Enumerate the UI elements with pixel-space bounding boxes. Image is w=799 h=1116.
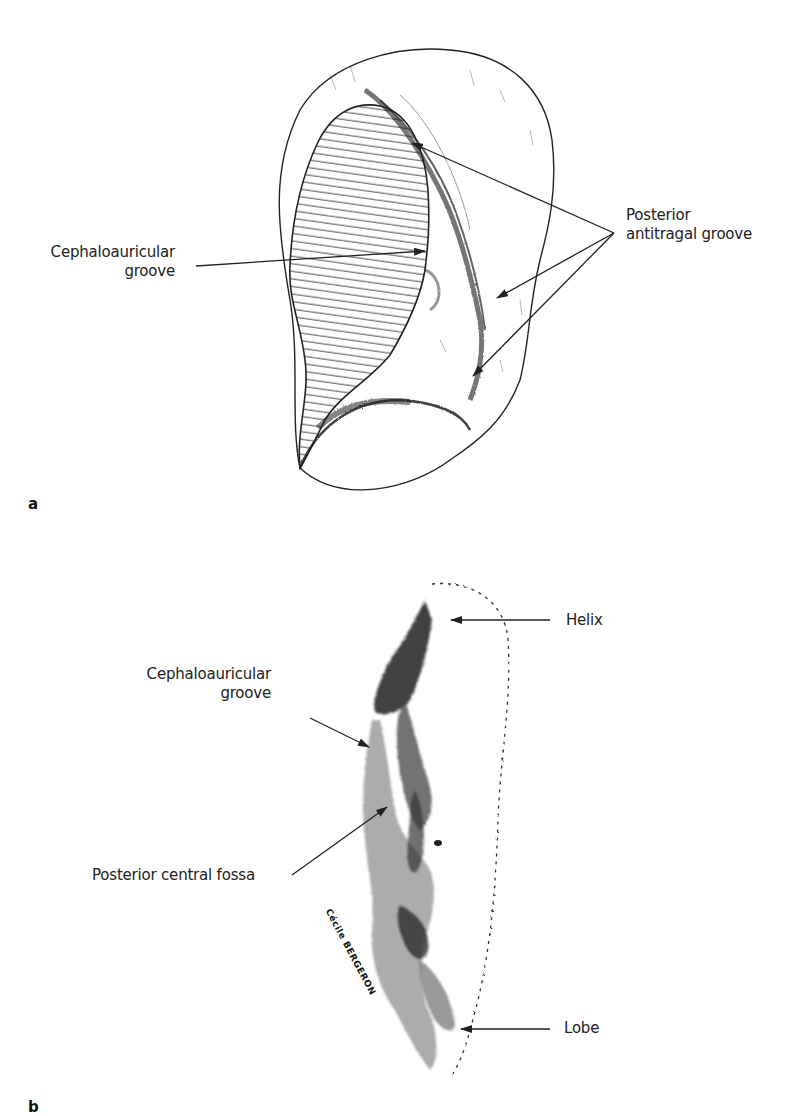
label-helix: Helix: [566, 611, 603, 630]
label-posterior-central-fossa: Posterior central fossa: [92, 866, 255, 885]
label-lobe: Lobe: [564, 1019, 599, 1038]
leader-cephaloauricular-b: [310, 718, 369, 747]
label-cephaloauricular-groove-b: Cephaloauricular groove: [128, 665, 271, 703]
panel-a-drawing: [279, 49, 554, 490]
panel-letter-a: a: [28, 495, 38, 513]
panel-letter-b: b: [28, 1098, 39, 1116]
label-posterior-antitragal-groove: Posterior antitragal groove: [626, 206, 752, 244]
label-cephaloauricular-groove-a: Cephaloauricular groove: [32, 243, 175, 281]
panel-b-drawing: [363, 583, 509, 1075]
